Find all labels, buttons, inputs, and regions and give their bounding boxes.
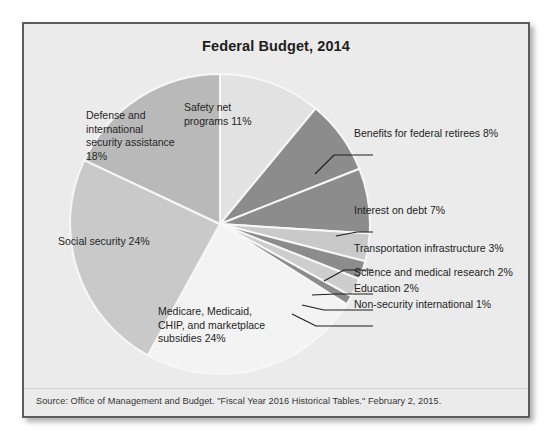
slice-label-science-research: Science and medical research 2% bbox=[354, 266, 513, 279]
figure-frame: Federal Budget, 2014 Safety net programs… bbox=[22, 22, 530, 418]
slice-label-federal-retirees: Benefits for federal retirees 8% bbox=[354, 127, 498, 140]
slice-label-non-security: Non-security international 1% bbox=[354, 298, 491, 311]
slice-label-defense: Defense and international security assis… bbox=[86, 109, 202, 163]
pie-chart bbox=[24, 24, 528, 416]
slice-label-social-security: Social security 24% bbox=[58, 235, 208, 249]
slice-label-medicare: Medicare, Medicaid, CHIP, and marketplac… bbox=[158, 305, 318, 346]
slice-label-interest-on-debt: Interest on debt 7% bbox=[354, 204, 445, 217]
slice-label-transportation: Transportation infrastructure 3% bbox=[354, 242, 504, 255]
source-divider bbox=[24, 388, 528, 389]
source-note: Source: Office of Management and Budget.… bbox=[36, 396, 441, 406]
slice-label-education: Education 2% bbox=[354, 282, 419, 295]
